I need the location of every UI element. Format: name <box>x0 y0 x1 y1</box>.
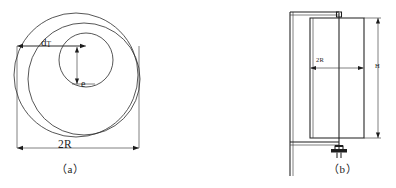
caption-panel-b: （b） <box>328 164 357 175</box>
width-arrow-left <box>17 146 23 150</box>
height-arrow-down <box>376 133 380 138</box>
vessel-body <box>310 18 364 138</box>
label-width-b: 2R <box>316 57 324 64</box>
label-diameter-t: dT <box>41 37 51 48</box>
e-arrow-down <box>75 79 79 84</box>
valve-flange <box>331 149 347 153</box>
valve-top-cap <box>335 145 343 147</box>
e-arrow-up <box>75 47 79 52</box>
width-arrow-right-b <box>358 66 364 70</box>
label-outer-width-a: 2R <box>58 139 72 151</box>
outer-circle <box>14 13 138 137</box>
inner-bore-circle <box>59 33 113 87</box>
caption-panel-a: （a） <box>56 164 84 175</box>
figure-canvas <box>0 0 396 188</box>
panel-a-drawing <box>14 13 140 150</box>
panel-b-drawing <box>290 12 381 176</box>
label-diameter-t-subscript: T <box>47 40 52 49</box>
label-height-b: H <box>375 63 380 70</box>
height-arrow-up <box>376 18 380 23</box>
dt-arrow-right <box>80 44 86 48</box>
width-arrow-right <box>133 146 139 150</box>
label-eccentricity: e <box>81 79 85 89</box>
technical-figure: dT e 2R （a） 2R H （b） <box>0 0 396 188</box>
